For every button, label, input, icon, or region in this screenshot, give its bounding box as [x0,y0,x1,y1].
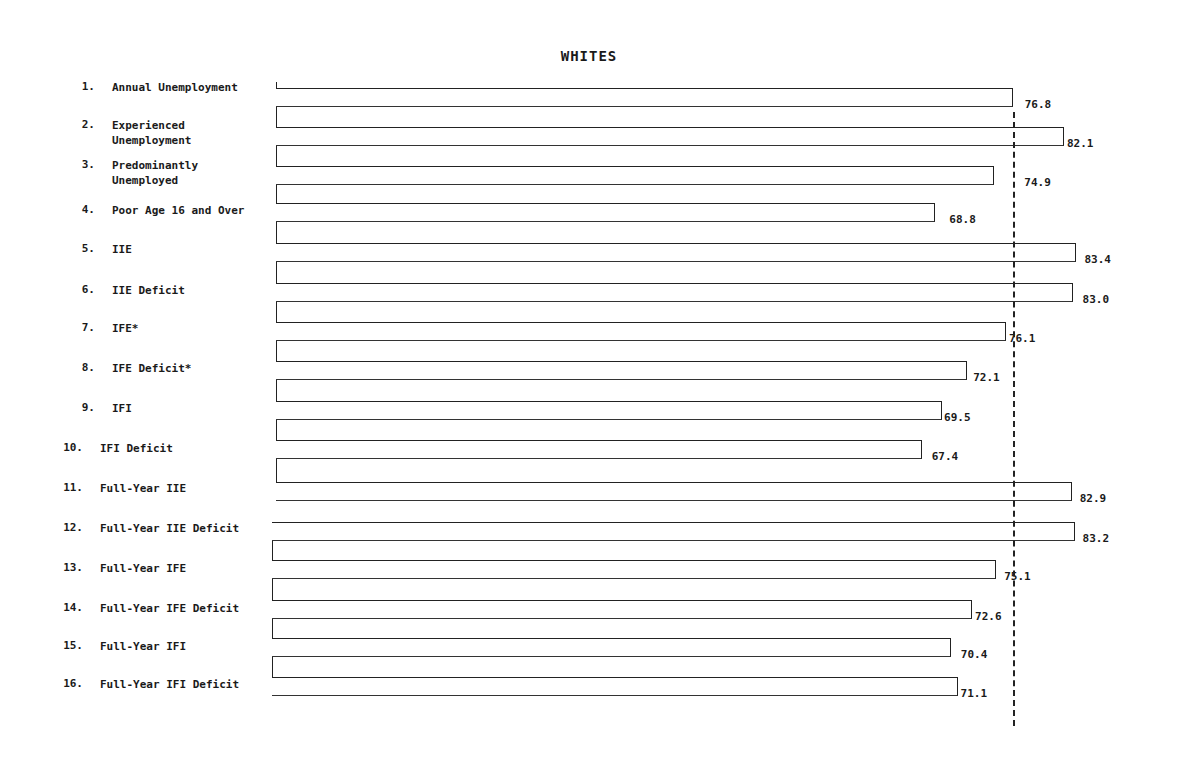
bar [272,677,958,696]
value-label: 67.4 [932,450,959,463]
row-number: 10. [43,441,83,454]
row-number: 7. [55,321,95,334]
category-label: IFI Deficit [100,441,173,456]
bar [276,322,1006,341]
value-label: 75.1 [1004,570,1031,583]
bar [276,243,1076,262]
category-label: Predominantly Unemployed [112,158,198,188]
reference-line [1013,112,1015,726]
value-label: 70.4 [961,648,988,661]
bar [276,401,942,420]
bar [276,440,922,459]
value-label: 69.5 [944,411,971,424]
bar [276,203,935,222]
bar [276,361,967,380]
value-label: 83.4 [1084,253,1111,266]
category-label: Experienced Unemployment [112,118,191,148]
row-number: 15. [43,639,83,652]
bar [276,166,994,185]
row-number: 11. [43,481,83,494]
category-label: IIE [112,242,132,257]
row-number: 4. [55,203,95,216]
value-label: 83.0 [1083,293,1110,306]
value-label: 74.9 [1024,176,1051,189]
bar [272,638,951,657]
value-label: 68.8 [949,213,976,226]
row-number: 3. [55,158,95,171]
category-label: Full-Year IFE Deficit [100,601,239,616]
value-label: 82.1 [1067,137,1094,150]
category-label: IFE* [112,321,139,336]
bar [276,127,1064,146]
category-label: Full-Year IFI [100,639,186,654]
chart-title: WHITES [0,48,1178,64]
row-number: 5. [55,242,95,255]
bar [276,88,1013,107]
category-label: IFE Deficit* [112,361,191,376]
category-label: IFI [112,401,132,416]
row-number: 1. [55,80,95,93]
bar [272,600,972,619]
row-number: 12. [43,521,83,534]
bar [272,522,1075,541]
category-label: Full-Year IIE Deficit [100,521,239,536]
row-number: 8. [55,361,95,374]
bar [272,560,996,579]
category-label: Annual Unemployment [112,80,238,95]
value-label: 72.6 [975,610,1002,623]
category-label: Full-Year IFI Deficit [100,677,239,692]
value-label: 83.2 [1083,532,1110,545]
category-label: Full-Year IFE [100,561,186,576]
value-label: 82.9 [1080,492,1107,505]
value-label: 72.1 [973,371,1000,384]
bar [276,283,1073,302]
category-label: Poor Age 16 and Over [112,203,244,218]
bar [276,482,1072,501]
row-number: 13. [43,561,83,574]
row-number: 6. [55,283,95,296]
row-number: 9. [55,401,95,414]
row-number: 2. [55,118,95,131]
value-label: 71.1 [961,687,988,700]
value-label: 76.8 [1025,98,1052,111]
row-number: 14. [43,601,83,614]
category-label: Full-Year IIE [100,481,186,496]
category-label: IIE Deficit [112,283,185,298]
row-number: 16. [43,677,83,690]
